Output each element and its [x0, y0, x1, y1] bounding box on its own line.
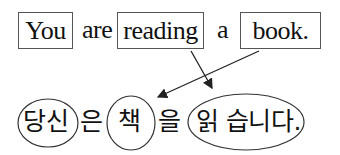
word-box-book: book. — [240, 12, 321, 49]
korean-eul: 을 — [158, 107, 181, 137]
word-are: are — [82, 12, 112, 48]
arrow-book-to-chaek — [158, 51, 259, 97]
word-you: You — [25, 16, 66, 46]
word-box-reading: reading — [117, 12, 204, 49]
word-book: book. — [253, 16, 309, 46]
word-reading: reading — [123, 16, 197, 46]
word-a: a — [217, 12, 228, 48]
word-box-you: You — [18, 12, 73, 49]
korean-ilkseumnida: 읽 습니다. — [196, 107, 301, 137]
korean-dangsin: 당신 — [23, 107, 69, 137]
korean-eun: 은 — [80, 107, 103, 137]
arrow-reading-to-verb — [191, 51, 212, 88]
korean-chaek: 책 — [118, 107, 141, 137]
